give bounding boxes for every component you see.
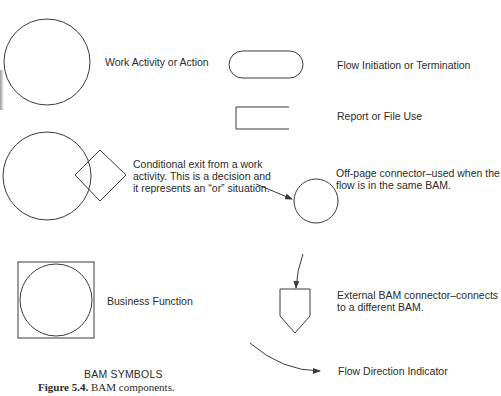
off-page-connector-circle-icon: [294, 179, 338, 223]
figure-caption: Figure 5.4. BAM components.: [38, 381, 175, 393]
external-connector-arrow-icon: [296, 254, 303, 288]
business-function-icon: [18, 262, 94, 338]
conditional-exit-label: Conditional exit from a work activity. T…: [133, 158, 271, 194]
figure-text: BAM components.: [91, 381, 175, 393]
flow-initiation-label: Flow Initiation or Termination: [337, 59, 470, 71]
work-activity-label: Work Activity or Action: [105, 56, 209, 68]
conditional-exit-icon: [3, 132, 126, 220]
flow-direction-arrow-icon: [250, 343, 320, 371]
report-file-label: Report or File Use: [337, 110, 422, 122]
business-function-label: Business Function: [107, 295, 193, 307]
flow-initiation-stadium-icon: [229, 51, 303, 78]
work-activity-circle-icon: [4, 19, 90, 105]
bam-symbols-title: BAM SYMBOLS: [84, 368, 163, 380]
external-connector-label: External BAM connector–connects to a dif…: [337, 289, 498, 313]
flow-direction-label: Flow Direction Indicator: [338, 365, 448, 377]
figure-number: Figure 5.4.: [38, 381, 88, 393]
external-connector-pentagon-icon: [280, 289, 310, 333]
off-page-connector-label: Off-page connector–used when the flow is…: [336, 167, 500, 191]
report-file-bracket-icon: [236, 107, 289, 129]
